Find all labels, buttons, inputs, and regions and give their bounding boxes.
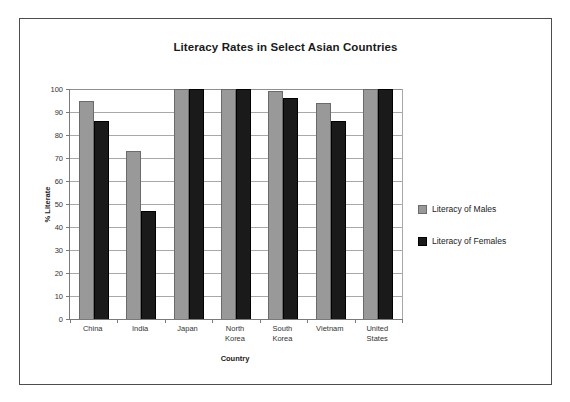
bar	[283, 98, 298, 319]
bar-group	[268, 89, 298, 319]
x-tick-label: SouthKorea	[259, 324, 305, 343]
x-tick-mark	[402, 319, 403, 323]
legend-label: Literacy of Females	[432, 236, 506, 246]
plot-right-edge	[402, 89, 403, 319]
bar	[331, 121, 346, 319]
chart-frame: Literacy Rates in Select Asian Countries…	[19, 18, 552, 385]
bar-group	[221, 89, 251, 319]
x-tick-label: UnitedStates	[354, 324, 400, 343]
legend-swatch-icon	[418, 205, 427, 214]
legend-swatch-icon	[418, 237, 427, 246]
x-tick-mark	[165, 319, 166, 323]
bar-group	[316, 89, 346, 319]
x-tick-mark	[212, 319, 213, 323]
bar	[316, 103, 331, 319]
x-tick-mark	[307, 319, 308, 323]
bar-group	[79, 89, 109, 319]
bar-groups	[70, 89, 402, 319]
bar-group	[174, 89, 204, 319]
x-tick-mark	[70, 319, 71, 323]
bar	[141, 211, 156, 319]
x-tick-label: Japan	[165, 324, 211, 343]
bar-group	[126, 89, 156, 319]
legend-label: Literacy of Males	[432, 204, 496, 214]
chart-title: Literacy Rates in Select Asian Countries	[20, 41, 551, 53]
bar	[79, 101, 94, 320]
x-tick-label: China	[70, 324, 116, 343]
legend-item[interactable]: Literacy of Females	[418, 236, 506, 246]
bar	[363, 89, 378, 319]
y-axis-title-text: % Literate	[44, 186, 53, 222]
chart-legend: Literacy of MalesLiteracy of Females	[418, 204, 506, 246]
bar	[221, 89, 236, 319]
bar	[378, 89, 393, 319]
bar	[189, 89, 204, 319]
bar	[126, 151, 141, 319]
x-axis-title: Country	[69, 354, 401, 363]
bar	[174, 89, 189, 319]
plot-area: 1009080706050403020100	[69, 89, 402, 320]
bar	[268, 91, 283, 319]
bar	[94, 121, 109, 319]
x-tick-label: NorthKorea	[212, 324, 258, 343]
x-tick-mark	[260, 319, 261, 323]
y-axis-title: % Literate	[42, 89, 54, 319]
x-tick-mark	[355, 319, 356, 323]
bar-group	[363, 89, 393, 319]
x-axis-labels: ChinaIndiaJapanNorthKoreaSouthKoreaVietn…	[69, 324, 401, 343]
x-tick-label: India	[117, 324, 163, 343]
x-tick-label: Vietnam	[307, 324, 353, 343]
legend-item[interactable]: Literacy of Males	[418, 204, 506, 214]
bar	[236, 89, 251, 319]
x-tick-mark	[117, 319, 118, 323]
